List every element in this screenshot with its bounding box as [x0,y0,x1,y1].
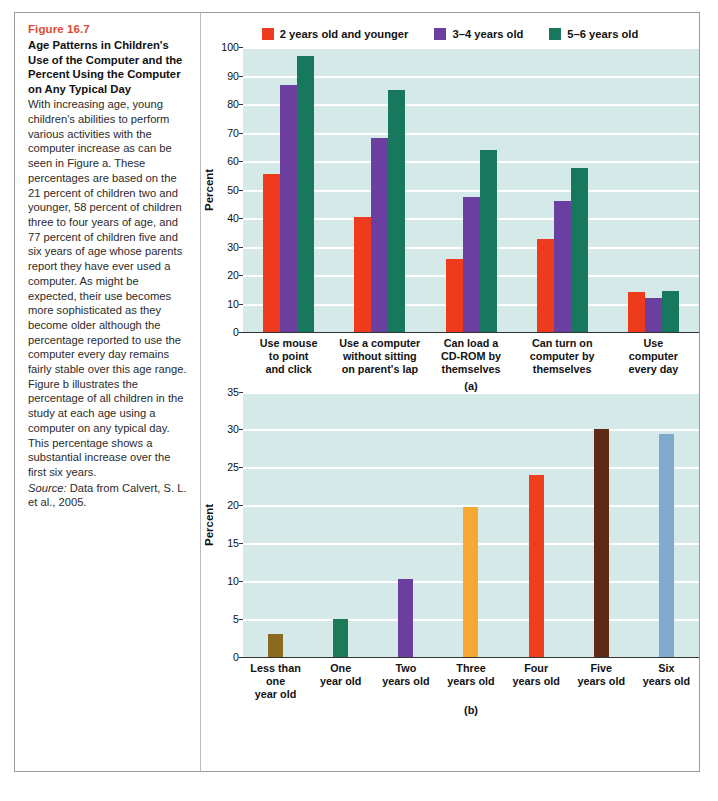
x-tick-label-line: computer by [517,350,608,363]
bar-group [608,47,699,332]
source-label: Source: [28,482,67,494]
x-tick-label: Usecomputerevery day [608,337,699,377]
legend-item: 5–6 years old [549,28,638,40]
x-tick-label-line: Six [634,662,699,675]
x-tick-label: Use a computerwithout sittingon parent's… [334,337,425,377]
legend-item: 3–4 years old [434,28,523,40]
x-tick-label-line: CD-ROM by [425,350,516,363]
x-tick-label-line: One [308,662,373,675]
y-tick-label: 5 [233,613,239,625]
x-tick-label-line: computer [608,350,699,363]
y-tick-label: 10 [227,298,239,310]
y-tick-label: 0 [233,326,239,338]
bar-group [517,47,608,332]
x-tick-label-line: years old [504,675,569,688]
chart-a-x-labels: Use mouseto pointand clickUse a computer… [243,333,699,377]
bar-slot [438,392,503,657]
bar [659,434,674,657]
figure-source: Source: Data from Calvert, S. L. et al.,… [28,481,188,510]
chart-b-bars [243,392,699,657]
figure-caption-body: With increasing age, young children's ab… [28,97,188,479]
x-tick-label-line: on parent's lap [334,363,425,376]
x-tick-label-line: years old [438,675,503,688]
x-tick-label-line: year old [243,688,308,701]
legend-swatch-icon [262,28,274,40]
x-tick-label-line: Two [373,662,438,675]
bar-slot [243,392,308,657]
x-tick-label-line: and click [243,363,334,376]
chart-a-panel-caption: (a) [243,380,699,392]
legend-label: 5–6 years old [567,28,638,40]
x-tick-label: Can turn oncomputer bythemselves [517,337,608,377]
chart-a-y-axis-title: Percent [201,47,217,332]
x-tick-label-line: Use a computer [334,337,425,350]
bar [354,217,371,332]
chart-b-body: Percent05101520253035 [201,392,699,657]
y-tick-label: 90 [227,70,239,82]
figure-caption-column: Figure 16.7 Age Patterns in Children's U… [15,13,201,771]
bar [280,85,297,332]
chart-a-y-axis-ticks: 0102030405060708090100 [217,47,243,332]
legend-item: 2 years old and younger [262,28,409,40]
y-tick-label: 25 [227,461,239,473]
y-tick-label: 70 [227,127,239,139]
chart-a-x-axis: Use mouseto pointand clickUse a computer… [243,332,699,392]
x-tick-label-line: Use [608,337,699,350]
bar [388,90,405,332]
x-tick-label: Sixyears old [634,662,699,702]
legend-label: 2 years old and younger [280,28,409,40]
y-tick-label: 50 [227,184,239,196]
bar [371,138,388,332]
bar [480,150,497,332]
bar [268,634,283,657]
x-tick-label: Threeyears old [438,662,503,702]
bar [398,579,413,656]
bar-group [425,47,516,332]
y-tick-label: 0 [233,651,239,663]
bar-group [334,47,425,332]
bar [463,507,478,656]
y-tick-label: 20 [227,499,239,511]
bar [594,429,609,656]
bar [297,56,314,332]
bar-slot [504,392,569,657]
bar [628,292,645,332]
y-tick-label: 10 [227,575,239,587]
chart-b-x-labels: Less than oneyear oldOneyear oldTwoyears… [243,658,699,702]
x-tick-label: Twoyears old [373,662,438,702]
chart-a-body: Percent0102030405060708090100 [201,47,699,332]
bar [263,174,280,332]
x-tick-label: Fouryears old [504,662,569,702]
bar [537,239,554,332]
x-tick-label: Can load aCD-ROM bythemselves [425,337,516,377]
bar-slot [569,392,634,657]
figure-panel: Figure 16.7 Age Patterns in Children's U… [14,12,700,772]
bar-slot [634,392,699,657]
bar [463,197,480,332]
x-tick-label-line: every day [608,363,699,376]
bar [333,619,348,657]
bar [662,291,679,332]
y-tick-label: 30 [227,241,239,253]
x-tick-label-line: years old [569,675,634,688]
bar [571,168,588,332]
x-tick-label-line: years old [634,675,699,688]
chart-b-plot-area [243,392,699,657]
bar-group [243,47,334,332]
y-tick-label: 40 [227,212,239,224]
x-tick-label-line: Use mouse [243,337,334,350]
y-tick-label: 100 [221,41,239,53]
legend-label: 3–4 years old [452,28,523,40]
x-tick-label-line: themselves [517,363,608,376]
x-tick-label: Use mouseto pointand click [243,337,334,377]
y-tick-label: 20 [227,269,239,281]
y-tick-label: 15 [227,537,239,549]
x-tick-label-line: Three [438,662,503,675]
x-tick-label-line: themselves [425,363,516,376]
charts-column: 2 years old and younger3–4 years old5–6 … [201,13,699,771]
chart-b-y-axis-ticks: 05101520253035 [217,392,243,657]
chart-a-plot-area [243,47,699,332]
chart-a-legend: 2 years old and younger3–4 years old5–6 … [201,13,699,47]
y-tick-label: 30 [227,423,239,435]
x-tick-label-line: Four [504,662,569,675]
